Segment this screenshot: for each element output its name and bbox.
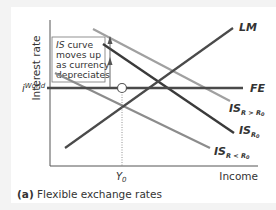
y-axis-label: Interest rate — [30, 35, 42, 100]
caption-label: (a) — [17, 188, 34, 200]
is-lm-fe-chart: Interest rate IS curve moves up as curre… — [0, 0, 276, 210]
caption-text: Flexible exchange rates — [37, 188, 162, 200]
is-curve-low — [55, 73, 210, 148]
is-high-label: ISR > R0 — [229, 102, 265, 117]
equilibrium-point — [118, 84, 127, 93]
fe-label: FE — [250, 82, 266, 95]
x-tick-y0: Y0 — [116, 171, 127, 184]
is-base-label: ISR0 — [239, 124, 260, 139]
x-axis-label: Income — [219, 170, 258, 182]
lm-label: LM — [239, 21, 257, 34]
is-low-label: ISR < R0 — [214, 145, 250, 160]
figure-caption: (a) Flexible exchange rates — [17, 188, 162, 200]
is-curve-high — [93, 29, 230, 101]
